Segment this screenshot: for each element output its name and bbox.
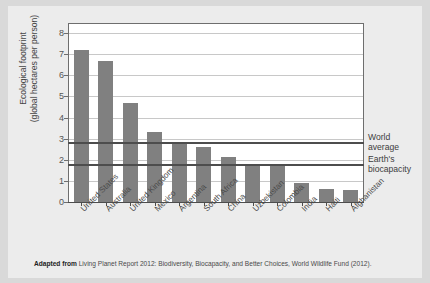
y-axis-tick-mark bbox=[64, 75, 68, 76]
bar bbox=[245, 165, 260, 202]
gridline bbox=[69, 54, 363, 55]
source-caption: Adapted from Living Planet Report 2012: … bbox=[34, 260, 372, 267]
reference-line bbox=[68, 142, 364, 144]
y-axis-tick-label: 5 bbox=[50, 91, 64, 101]
annotation-line1: World bbox=[368, 132, 399, 142]
annotation-line2: average bbox=[368, 142, 399, 152]
y-axis-tick-labels: 012345678 bbox=[48, 6, 64, 283]
reference-line bbox=[68, 164, 364, 166]
reference-line-annotation: Worldaverage bbox=[368, 132, 399, 152]
y-axis-label-line1: Ecological footprint bbox=[18, 5, 29, 133]
figure-container: Ecological footprint (global hectares pe… bbox=[0, 0, 430, 283]
figure-title bbox=[26, 2, 416, 14]
y-axis-tick-label: 4 bbox=[50, 113, 64, 123]
reference-line-annotation: Earth'sbiocapacity bbox=[368, 154, 411, 174]
y-axis-tick-label: 8 bbox=[50, 28, 64, 38]
y-axis-tick-mark bbox=[64, 202, 68, 203]
source-prefix: Adapted from bbox=[34, 260, 77, 267]
annotation-line2: biocapacity bbox=[368, 164, 411, 174]
y-axis-tick-label: 6 bbox=[50, 70, 64, 80]
y-axis-tick-label: 2 bbox=[50, 155, 64, 165]
gridline bbox=[69, 33, 363, 34]
y-axis-tick-mark bbox=[64, 160, 68, 161]
y-axis-tick-mark bbox=[64, 181, 68, 182]
y-axis-label: Ecological footprint (global hectares pe… bbox=[18, 5, 39, 133]
figure-card: Ecological footprint (global hectares pe… bbox=[8, 6, 422, 278]
y-axis-tick-mark bbox=[64, 118, 68, 119]
y-axis-tick-mark bbox=[64, 139, 68, 140]
y-axis-tick-mark bbox=[64, 33, 68, 34]
annotation-line1: Earth's bbox=[368, 154, 411, 164]
y-axis-tick-mark bbox=[64, 96, 68, 97]
y-axis-tick-label: 1 bbox=[50, 176, 64, 186]
bar bbox=[74, 50, 89, 202]
y-axis-tick-mark bbox=[64, 54, 68, 55]
y-axis-tick-label: 0 bbox=[50, 197, 64, 207]
y-axis-tick-label: 7 bbox=[50, 49, 64, 59]
y-axis-label-line2: (global hectares per person) bbox=[28, 5, 39, 133]
source-text: Living Planet Report 2012: Biodiversity,… bbox=[79, 260, 372, 267]
y-axis-tick-label: 3 bbox=[50, 134, 64, 144]
